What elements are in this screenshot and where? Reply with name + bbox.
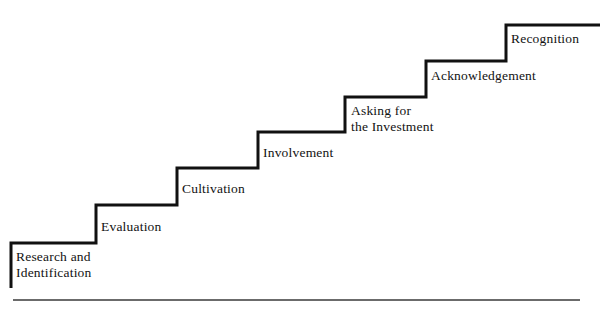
step-label-cultivation: Cultivation: [182, 181, 245, 197]
step-label-acknowledgement: Acknowledgement: [431, 68, 536, 84]
step-label-research-and-identification: Research and Identification: [16, 249, 92, 281]
step-label-asking-for-the-investment: Asking for the Investment: [351, 103, 434, 135]
step-label-recognition: Recognition: [511, 31, 579, 47]
staircase-diagram: Research and Identification Evaluation C…: [0, 0, 610, 319]
step-label-evaluation: Evaluation: [101, 219, 161, 235]
step-label-involvement: Involvement: [263, 145, 333, 161]
